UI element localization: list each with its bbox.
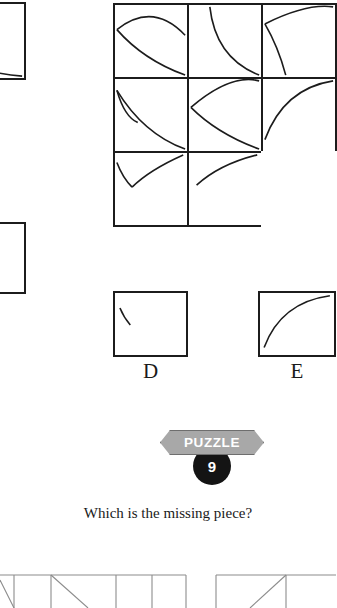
next-puzzle-grid-lines xyxy=(0,566,336,608)
cell-figure-single-arc-tl-br xyxy=(189,5,261,77)
puzzle-banner-label: PUZZLE xyxy=(160,430,264,455)
option-figure-empty xyxy=(0,224,24,292)
option-figure-single-arc-bl-tr xyxy=(260,293,334,355)
next-puzzle-strip xyxy=(0,566,336,608)
question-text: Which is the missing piece? xyxy=(0,505,336,522)
cell-figure-lens-two-arcs xyxy=(115,5,187,77)
option-figure-short-stroke-upper-left xyxy=(115,293,186,355)
matrix-cell-row2-col1 xyxy=(113,77,189,153)
matrix-cell-row2-col3 xyxy=(261,77,337,153)
puzzle-badge: 9 PUZZLE xyxy=(160,430,264,478)
matrix-cell-row3-col2 xyxy=(187,151,263,227)
matrix-cell-row1-col2 xyxy=(187,3,263,79)
cell-figure-arc-with-tail xyxy=(115,79,187,151)
option-e-label: E xyxy=(258,361,336,382)
matrix-cell-row1-col3 xyxy=(261,3,337,79)
cell-figure-single-arc-bl-tr xyxy=(263,79,335,151)
option-partial-bottom[interactable] xyxy=(0,222,26,294)
option-partial-top[interactable] xyxy=(0,2,26,80)
option-d[interactable] xyxy=(113,291,188,357)
option-e[interactable] xyxy=(258,291,336,357)
matrix-cell-row3-col3 xyxy=(261,151,337,227)
cell-figure-empty xyxy=(261,151,337,227)
cell-figure-lens-two-arcs xyxy=(189,79,261,151)
option-d-label: D xyxy=(113,361,188,382)
matrix-cell-row1-col1 xyxy=(113,3,189,79)
option-figure-partial-arc-bottom-left xyxy=(0,4,24,78)
matrix-cell-row2-col2 xyxy=(187,77,263,153)
cell-figure-v-two-arcs xyxy=(115,153,187,225)
cell-figure-arc-with-tail xyxy=(263,5,335,77)
cell-figure-short-arc-bl-tr xyxy=(189,153,261,225)
puzzle-matrix xyxy=(113,3,265,225)
matrix-cell-row3-col1 xyxy=(113,151,189,227)
